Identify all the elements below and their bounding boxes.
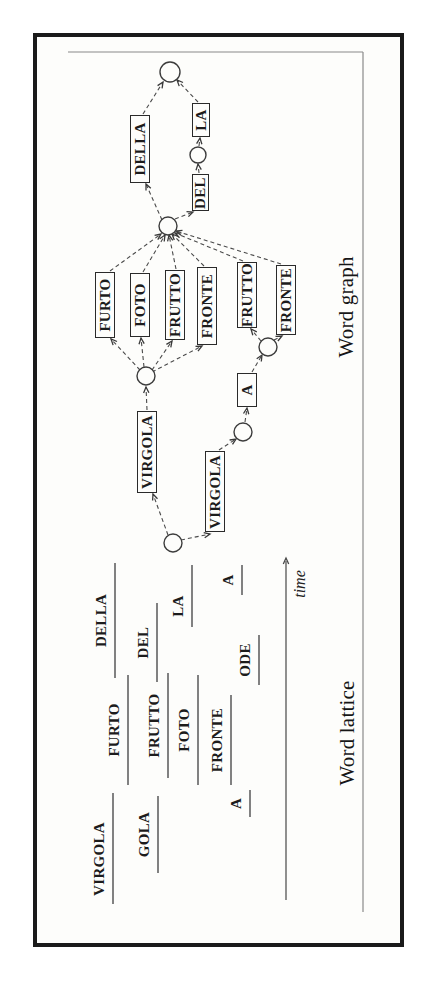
lattice-word-label: FRONTE [209, 708, 226, 772]
lattice-word-label: DEL [135, 627, 152, 659]
scanned-figure-page: Word lattice Word graph time VIRGOLAVIRG… [0, 0, 424, 999]
labels-layer: Word lattice Word graph time VIRGOLAVIRG… [0, 0, 424, 999]
lattice-word-label: LA [170, 595, 187, 616]
lattice-word-label: FOTO [176, 708, 193, 751]
graph-word-box: FOTO [130, 273, 150, 337]
rotated-figure: Word lattice Word graph time VIRGOLAVIRG… [0, 0, 424, 999]
graph-word-box: FRUTTO [165, 270, 185, 340]
time-axis-label: time [291, 570, 309, 598]
graph-word-box: DELLA [130, 115, 150, 183]
lattice-word-label: DELLA [93, 594, 110, 647]
graph-word-box: FRONTE [276, 265, 296, 335]
lattice-word-label: VIRGOLA [91, 822, 108, 896]
lattice-word-label: A [220, 574, 237, 585]
graph-word-box: FRONTE [197, 267, 217, 345]
graph-word-box: VIRGOLA [205, 452, 225, 533]
graph-word-box: LA [192, 103, 210, 137]
lattice-caption: Word lattice [335, 680, 360, 785]
graph-word-box: DEL [192, 175, 209, 212]
graph-word-box: FURTO [95, 272, 115, 338]
lattice-word-label: GOLA [136, 812, 153, 857]
lattice-word-label: ODE [237, 643, 254, 676]
graph-word-box: A [237, 373, 257, 407]
graph-word-box: FRUTTO [237, 262, 257, 328]
lattice-word-label: A [228, 798, 245, 809]
graph-word-box: VIRGOLA [137, 411, 157, 493]
graph-caption: Word graph [334, 256, 359, 357]
lattice-word-label: FRUTTO [146, 693, 163, 757]
lattice-word-label: FURTO [106, 703, 123, 756]
